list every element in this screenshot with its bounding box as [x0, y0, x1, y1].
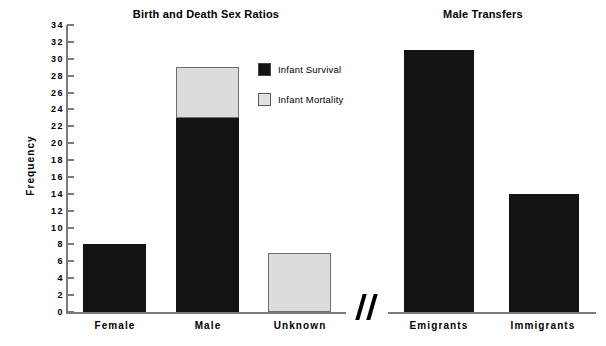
y-tick-mark — [67, 75, 74, 77]
y-tick-10: 10 — [34, 222, 74, 234]
bar-female — [83, 244, 146, 312]
y-tick-label: 24 — [51, 103, 64, 115]
y-tick-label: 32 — [51, 36, 64, 48]
y-tick-label: 26 — [51, 87, 64, 99]
y-tick-mark — [67, 260, 74, 262]
y-tick-mark — [67, 92, 74, 94]
y-tick-label: 14 — [51, 188, 64, 200]
chart-title-right: Male Transfers — [398, 8, 568, 20]
x-tick-label-immigrants: Immigrants — [488, 320, 598, 331]
y-tick-mark — [67, 277, 74, 279]
y-tick-2: 2 — [34, 289, 74, 301]
y-tick-mark — [67, 125, 74, 127]
y-tick-6: 6 — [34, 255, 74, 267]
chart-title-left: Birth and Death Sex Ratios — [96, 8, 316, 20]
bar-segment-survival — [509, 194, 579, 312]
bar-unknown — [268, 253, 331, 312]
bar-segment-survival — [176, 118, 239, 312]
y-tick-mark — [67, 176, 74, 178]
y-tick-34: 34 — [34, 19, 74, 31]
x-tick-label-emigrants: Emigrants — [385, 320, 493, 331]
legend-swatch-icon — [258, 93, 271, 106]
y-tick-mark — [67, 243, 74, 245]
y-tick-mark — [67, 142, 74, 144]
y-tick-label: 34 — [51, 19, 64, 31]
legend-item: Infant Mortality — [258, 92, 384, 108]
bar-emigrants — [404, 50, 474, 312]
y-tick-22: 22 — [34, 120, 74, 132]
y-tick-12: 12 — [34, 205, 74, 217]
y-tick-28: 28 — [34, 70, 74, 82]
y-tick-label: 4 — [57, 272, 64, 284]
y-tick-mark — [67, 227, 74, 229]
y-tick-label: 0 — [57, 306, 64, 318]
y-tick-8: 8 — [34, 238, 74, 250]
y-tick-label: 28 — [51, 70, 64, 82]
y-tick-mark — [67, 108, 74, 110]
bar-male — [176, 67, 239, 312]
y-tick-label: 22 — [51, 120, 64, 132]
y-tick-label: 10 — [51, 222, 64, 234]
x-axis-line-right — [388, 312, 596, 314]
bar-segment-mortality — [176, 67, 239, 118]
y-tick-label: 2 — [57, 289, 64, 301]
x-tick-label-male: Male — [159, 320, 257, 331]
y-tick-label: 16 — [51, 171, 64, 183]
y-tick-label: 30 — [51, 53, 64, 65]
axis-break-icon — [352, 294, 384, 320]
bar-segment-mortality — [268, 253, 331, 312]
y-tick-24: 24 — [34, 103, 74, 115]
chart-figure: Birth and Death Sex Ratios Male Transfer… — [0, 0, 606, 346]
bar-segment-survival — [404, 50, 474, 312]
legend-label: Infant Survival — [278, 62, 341, 77]
legend-swatch-icon — [258, 63, 271, 76]
y-tick-mark — [67, 159, 74, 161]
y-tick-label: 18 — [51, 154, 64, 166]
y-tick-4: 4 — [34, 272, 74, 284]
y-tick-32: 32 — [34, 36, 74, 48]
y-tick-26: 26 — [34, 87, 74, 99]
y-tick-label: 20 — [51, 137, 64, 149]
y-tick-mark — [67, 24, 74, 26]
y-tick-mark — [67, 294, 74, 296]
y-tick-20: 20 — [34, 137, 74, 149]
legend-item: Infant Survival — [258, 62, 384, 78]
y-tick-mark — [67, 193, 74, 195]
y-tick-30: 30 — [34, 53, 74, 65]
y-tick-16: 16 — [34, 171, 74, 183]
chart-legend: Infant SurvivalInfant Mortality — [258, 62, 384, 122]
x-tick-label-unknown: Unknown — [251, 320, 349, 331]
y-tick-14: 14 — [34, 188, 74, 200]
y-tick-label: 6 — [57, 255, 64, 267]
legend-label: Infant Mortality — [278, 92, 344, 107]
y-tick-mark — [67, 210, 74, 212]
y-tick-label: 8 — [57, 238, 64, 250]
x-tick-label-female: Female — [66, 320, 164, 331]
y-tick-mark — [67, 41, 74, 43]
bar-segment-survival — [83, 244, 146, 312]
y-axis-line — [66, 25, 68, 314]
y-tick-mark — [67, 58, 74, 60]
x-axis-line-left — [66, 312, 346, 314]
bar-immigrants — [509, 194, 579, 312]
y-tick-label: 12 — [51, 205, 64, 217]
y-tick-18: 18 — [34, 154, 74, 166]
